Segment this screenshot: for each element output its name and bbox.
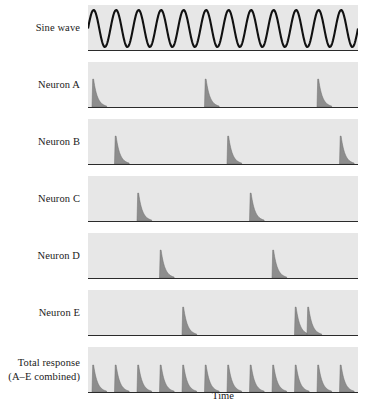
plot-area-neuron-b xyxy=(88,119,358,164)
row-label-line: Neuron B xyxy=(38,135,80,148)
panel-row-sine-wave: Sine wave xyxy=(0,5,380,50)
row-label-total-response: Total response(A–E combined) xyxy=(0,347,80,392)
axis-line-total-response xyxy=(88,392,358,393)
axis-line-neuron-d xyxy=(88,278,358,279)
plot-area-total-response xyxy=(88,347,358,392)
row-label-neuron-a: Neuron A xyxy=(0,62,80,107)
panel-row-neuron-a: Neuron A xyxy=(0,62,380,107)
row-label-line: (A–E combined) xyxy=(8,370,80,383)
row-label-line: Neuron C xyxy=(38,192,80,205)
row-label-neuron-d: Neuron D xyxy=(0,233,80,278)
neural-response-figure: Sine waveNeuron ANeuron BNeuron CNeuron … xyxy=(0,0,380,414)
row-label-neuron-e: Neuron E xyxy=(0,290,80,335)
row-label-line: Neuron D xyxy=(38,249,81,262)
row-label-line: Neuron E xyxy=(39,306,80,319)
plot-area-sine-wave xyxy=(88,5,358,50)
plot-area-neuron-c xyxy=(88,176,358,221)
panel-row-total-response: Total response(A–E combined) xyxy=(0,347,380,392)
plot-area-neuron-a xyxy=(88,62,358,107)
axis-line-neuron-c xyxy=(88,221,358,222)
plot-area-neuron-e xyxy=(88,290,358,335)
row-label-line: Sine wave xyxy=(36,21,80,34)
row-label-line: Total response xyxy=(18,356,80,369)
row-label-neuron-b: Neuron B xyxy=(0,119,80,164)
row-label-sine-wave: Sine wave xyxy=(0,5,80,50)
panel-row-neuron-c: Neuron C xyxy=(0,176,380,221)
axis-line-neuron-e xyxy=(88,335,358,336)
panel-row-neuron-b: Neuron B xyxy=(0,119,380,164)
axis-line-neuron-a xyxy=(88,107,358,108)
plot-area-neuron-d xyxy=(88,233,358,278)
row-label-line: Neuron A xyxy=(38,78,80,91)
row-label-neuron-c: Neuron C xyxy=(0,176,80,221)
panel-row-neuron-d: Neuron D xyxy=(0,233,380,278)
axis-line-sine-wave xyxy=(88,50,358,51)
panel-row-neuron-e: Neuron E xyxy=(0,290,380,335)
axis-line-neuron-b xyxy=(88,164,358,165)
